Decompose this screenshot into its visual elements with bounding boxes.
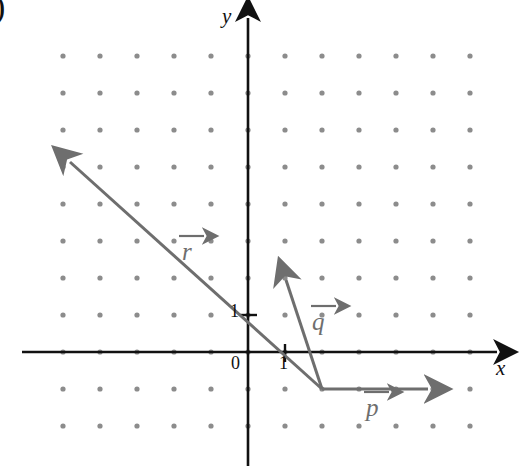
lattice-dot [134,238,139,243]
lattice-dot [356,201,361,206]
vector-r-label: r [182,238,192,266]
lattice-dot [282,53,287,58]
lattice-dot [171,238,176,243]
lattice-dot [356,238,361,243]
lattice-dot [467,275,472,280]
y-tick-label-1: 1 [230,301,239,322]
vector-q-label: q [312,308,325,336]
lattice-dot [282,164,287,169]
lattice-dot [467,90,472,95]
lattice-dot [97,386,102,391]
lattice-dot [171,164,176,169]
lattice-dot [467,423,472,428]
lattice-dot [208,238,213,243]
lattice-dot [97,90,102,95]
lattice-dot [208,275,213,280]
lattice-dot [319,275,324,280]
lattice-dot [282,312,287,317]
lattice-dot [319,90,324,95]
lattice-dot [282,423,287,428]
lattice-dot [393,312,398,317]
lattice-dot [356,164,361,169]
lattice-dot [319,423,324,428]
lattice-dot [171,90,176,95]
lattice-dot [393,201,398,206]
lattice-dot [208,164,213,169]
lattice-dot [467,386,472,391]
lattice-dot [208,127,213,132]
coordinate-plane-svg [0,0,530,475]
lattice-dot [430,312,435,317]
lattice-dot [319,164,324,169]
lattice-dot [356,127,361,132]
lattice-dot [467,164,472,169]
vector-p-label: p [366,394,379,422]
lattice-dot [60,90,65,95]
x-axis-label: x [496,356,505,381]
lattice-dot [60,423,65,428]
lattice-dot [171,127,176,132]
lattice-dot [134,201,139,206]
lattice-dot [356,90,361,95]
lattice-dot [356,53,361,58]
lattice-dot [467,53,472,58]
lattice-dot [467,238,472,243]
lattice-dot [467,127,472,132]
lattice-dot [467,201,472,206]
lattice-dot [430,275,435,280]
lattice-dot [208,386,213,391]
lattice-dot [97,275,102,280]
lattice-dot [430,201,435,206]
lattice-dot [393,275,398,280]
lattice-dot [97,53,102,58]
lattice-dot [134,386,139,391]
lattice-dot [430,386,435,391]
lattice-dot [134,127,139,132]
lattice-dot [430,423,435,428]
lattice-dot [208,53,213,58]
lattice-dot [60,238,65,243]
lattice-dot [393,423,398,428]
lattice-dot [356,423,361,428]
lattice-dot [393,164,398,169]
lattice-dot [208,201,213,206]
lattice-dot [134,164,139,169]
lattice-dot [319,238,324,243]
lattice-dot [393,53,398,58]
lattice-dot [60,386,65,391]
lattice-dot [60,312,65,317]
y-axis-label: y [222,4,231,29]
lattice-dot [282,386,287,391]
lattice-dot [430,53,435,58]
lattice-dot [60,201,65,206]
lattice-dot [319,127,324,132]
origin-label: 0 [231,353,240,374]
lattice-dot [356,312,361,317]
lattice-dot [97,201,102,206]
lattice-dot [282,90,287,95]
lattice-dot [356,275,361,280]
x-tick-label-1: 1 [279,353,288,374]
lattice-dot [97,238,102,243]
vector-diagram-figure: ) [0,0,530,475]
lattice-dot [60,275,65,280]
lattice-dot [134,53,139,58]
lattice-dot [97,423,102,428]
lattice-dot [134,423,139,428]
lattice-dot [430,164,435,169]
lattice-dot [171,312,176,317]
lattice-dot [208,423,213,428]
lattice-dot [467,312,472,317]
lattice-dot [97,127,102,132]
lattice-dot [171,386,176,391]
lattice-dot [393,90,398,95]
lattice-dot [282,127,287,132]
lattice-dot [171,275,176,280]
lattice-dot [60,53,65,58]
lattice-dot [97,164,102,169]
lattice-dot [430,127,435,132]
lattice-dot [393,127,398,132]
lattice-dot [60,164,65,169]
lattice-dot [430,238,435,243]
lattice-dot [282,238,287,243]
